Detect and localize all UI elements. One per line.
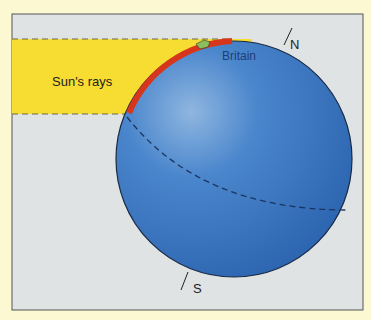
sun-rays-label: Sun's rays [52, 74, 112, 89]
north-label: N [290, 37, 299, 52]
diagram-canvas [0, 0, 371, 320]
britain-label: Britain [222, 49, 256, 63]
south-label: S [193, 281, 202, 296]
